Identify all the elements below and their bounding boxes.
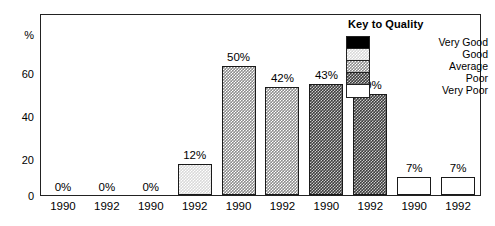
x-tick-label: 1992 [436, 199, 480, 219]
bar-value-label: 50% [217, 51, 261, 63]
bar-rect [178, 164, 212, 195]
bar-slot: 42% [261, 15, 305, 195]
legend-swatch-average [347, 61, 369, 73]
x-tick-label: 1990 [41, 199, 85, 219]
x-tick-label: 1992 [85, 199, 129, 219]
y-tick-40: 40 [4, 112, 34, 123]
x-tick-label: 1990 [129, 199, 173, 219]
y-tick-20: 20 [4, 155, 34, 166]
legend-label-poor: Poor [376, 72, 488, 84]
x-tick-label: 1992 [261, 199, 305, 219]
legend-title: Key to Quality [348, 18, 423, 30]
bar-value-label: 0% [129, 181, 173, 193]
bar-slot: 12% [173, 15, 217, 195]
bar-value-label: 7% [392, 162, 436, 174]
bar-rect [353, 94, 387, 195]
bar-rect [441, 177, 475, 195]
legend-swatch-good [347, 49, 369, 61]
bar-rect [222, 66, 256, 195]
bar-slot: 50% [217, 15, 261, 195]
y-tick-0: 0 [4, 191, 34, 202]
bar-value-label: 0% [85, 181, 129, 193]
legend-swatch-poor [347, 73, 369, 85]
legend-label-stack: Very Good Good Average Poor Very Poor [376, 36, 488, 96]
x-tick-label: 1992 [348, 199, 392, 219]
x-tick-label: 1990 [392, 199, 436, 219]
bar-slot: 0% [129, 15, 173, 195]
bar-rect [397, 177, 431, 195]
legend-swatch-stack [346, 36, 370, 98]
legend-label-good: Good [376, 48, 488, 60]
legend-swatch-very-good [347, 37, 369, 49]
bar-value-label: 12% [173, 149, 217, 161]
bar-value-label: 0% [41, 181, 85, 193]
x-tick-label: 1990 [217, 199, 261, 219]
legend-swatch-very-poor [347, 85, 369, 97]
y-axis-unit-label: % [8, 30, 34, 41]
bar-value-label: 7% [436, 162, 480, 174]
legend-label-average: Average [376, 60, 488, 72]
legend-label-very-poor: Very Poor [376, 84, 488, 96]
x-axis: 1990 1992 1990 1992 1990 1992 1990 1992 … [41, 199, 480, 219]
bar-rect [265, 87, 299, 195]
x-tick-label: 1990 [304, 199, 348, 219]
bar-slot: 0% [85, 15, 129, 195]
bar-value-label: 42% [261, 72, 305, 84]
x-tick-label: 1992 [173, 199, 217, 219]
bar-chart: % 60 40 20 0 0% 0% 0% 12% 50% 42% 43 [0, 0, 495, 226]
legend-label-very-good: Very Good [376, 36, 488, 48]
bar-slot: 0% [41, 15, 85, 195]
y-tick-60: 60 [4, 69, 34, 80]
chart-legend: Key to Quality Very Good Good Average Po… [332, 6, 492, 102]
